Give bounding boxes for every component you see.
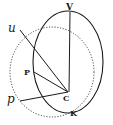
segment-u-c [20, 30, 68, 92]
segment-v-c [69, 12, 70, 92]
label-v: V [65, 2, 74, 12]
label-k: K [70, 108, 78, 118]
geometry-diagram: V u P C p K [0, 0, 113, 125]
label-c: C [63, 93, 69, 103]
segment-p-c [34, 72, 68, 92]
label-u: u [8, 21, 16, 35]
label-p-upper: P [24, 67, 30, 77]
label-p-lower: p [7, 92, 15, 106]
